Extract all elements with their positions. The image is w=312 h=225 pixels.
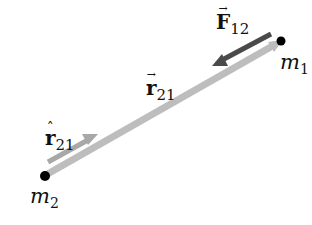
- vector-arrow-accent-icon: →: [146, 69, 157, 80]
- r21-hat-label: ˆr21: [45, 128, 75, 148]
- m2-label: m2: [30, 186, 59, 207]
- r21-vector: [44, 40, 283, 176]
- vector-arrow-accent-icon: →: [216, 3, 230, 14]
- mass-m1-dot: [277, 37, 286, 46]
- m1-label: m1: [280, 52, 309, 73]
- mass-m2-dot: [40, 171, 50, 181]
- r21-label: →r21: [146, 78, 176, 98]
- unit-hat-accent-icon: ˆ: [45, 121, 56, 135]
- F12-label: →F12: [216, 12, 249, 32]
